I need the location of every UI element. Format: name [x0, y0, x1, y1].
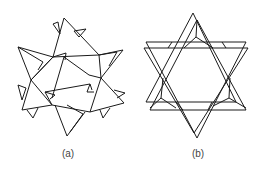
caption-a: (a) [48, 148, 88, 159]
panel-b-drawing [144, 13, 248, 138]
panel-a-drawing [18, 18, 125, 136]
caption-b: (b) [178, 148, 218, 159]
